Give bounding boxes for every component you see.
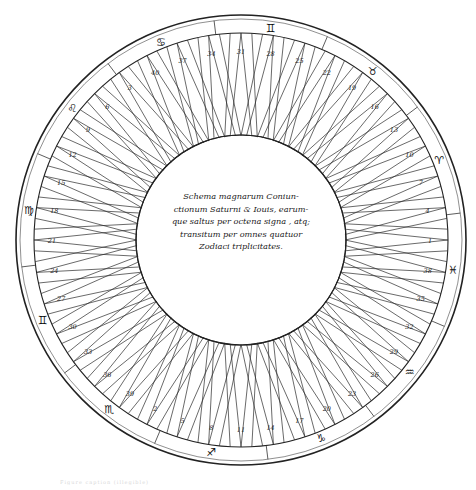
cell-number: 24 [49, 267, 58, 275]
cell-number: 5 [181, 417, 185, 425]
gemini-sign-icon: ♊ [266, 22, 276, 35]
cell-number: 20 [322, 405, 331, 413]
cancer-sign-icon: ♋ [156, 36, 166, 49]
cell-number: 34 [207, 50, 215, 58]
cell-number: 12 [68, 151, 76, 159]
virgo-sign-icon: ♍ [24, 204, 34, 217]
cell-number: 21 [47, 237, 56, 245]
leo-sign-icon: ♌ [67, 102, 77, 115]
cell-number: 35 [417, 295, 425, 303]
cell-number: 22 [322, 69, 331, 77]
cell-number: 28 [265, 50, 274, 58]
cell-number: 9 [86, 126, 90, 134]
cell-number: 17 [295, 417, 304, 425]
aries-sign-icon: ♈ [434, 154, 444, 167]
cell-number: 4 [425, 207, 430, 215]
cell-number: 2 [152, 405, 157, 413]
cell-number: 31 [237, 48, 245, 56]
cell-number: 33 [84, 348, 92, 356]
cell-number: 37 [178, 57, 187, 65]
cell-number: 13 [390, 126, 398, 134]
cell-number: 25 [294, 57, 303, 65]
cell-number: 14 [266, 424, 274, 432]
cell-number: 3 [128, 84, 132, 92]
cell-number: 40 [150, 69, 159, 77]
cell-number: 6 [105, 103, 109, 111]
cell-number: 32 [405, 323, 413, 331]
cell-number: 19 [348, 84, 356, 92]
cell-number: 29 [389, 348, 398, 356]
cell-number: 15 [57, 179, 65, 187]
cell-number: 26 [370, 371, 379, 379]
cell-number: 16 [371, 103, 379, 111]
cell-number: 39 [126, 390, 134, 398]
caption-text: Figure caption (illegible) [60, 479, 460, 485]
title-line: Schema magnarum Coniun- [158, 190, 324, 203]
cell-number: 1 [428, 237, 432, 245]
title-line: ctionum Saturni & Iouis, earum- [158, 203, 324, 216]
cell-number: 10 [405, 151, 413, 159]
figure-caption: Figure caption (illegible) [60, 479, 460, 485]
title-line: Zodiaci triplicitates. [158, 240, 324, 253]
aquarius-sign-icon: ♒ [405, 366, 415, 379]
cell-number: 8 [209, 424, 213, 432]
capricorn-sign-icon: ♑ [316, 432, 326, 445]
cell-number: 36 [103, 371, 111, 379]
gemini-left-sign-icon: ♊ [38, 314, 48, 327]
taurus-sign-icon: ♉ [368, 65, 378, 78]
scorpio-sign-icon: ♏ [104, 403, 114, 416]
title-line: transitum per omnes quatuor [158, 228, 324, 241]
pisces-sign-icon: ♓ [448, 264, 458, 277]
cell-number: 27 [56, 295, 66, 303]
diagram-title: Schema magnarum Coniun- ctionum Saturni … [158, 190, 324, 253]
cell-number: 30 [68, 323, 76, 331]
title-line: que saltus per octena signa , atq; [158, 215, 324, 228]
cell-number: 11 [237, 426, 245, 434]
cell-number: 38 [424, 267, 432, 275]
cell-number: 23 [347, 390, 356, 398]
sagittarius-sign-icon: ♐ [206, 446, 216, 459]
cell-number: 18 [50, 207, 58, 215]
